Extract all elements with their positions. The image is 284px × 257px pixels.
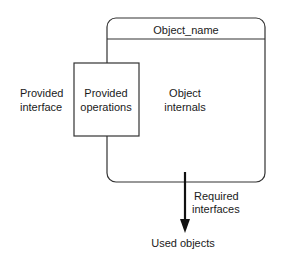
provided-interface-label-line2: interface [20, 101, 62, 114]
required-interfaces-label-line1: Required [194, 190, 239, 203]
provided-interface-label-line1: Provided [20, 87, 63, 100]
object-internals-label-line1: Object [169, 87, 201, 100]
diagram-canvas [0, 0, 284, 257]
arrow-down-icon [180, 219, 190, 233]
object-name-label: Object_name [153, 24, 218, 37]
used-objects-label: Used objects [151, 237, 215, 250]
object-internals-label-line2: internals [164, 101, 206, 114]
provided-operations-label-line1: Provided [84, 87, 127, 100]
provided-operations-label-line2: operations [80, 101, 131, 114]
required-interfaces-label-line2: interfaces [192, 203, 240, 216]
